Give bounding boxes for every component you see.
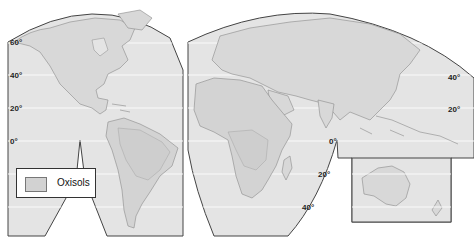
lat-label-20s-right: 20° [318,170,330,179]
lat-label-40n-right: 40° [448,73,460,82]
lat-label-40n-left: 40° [10,71,22,80]
americas-panel [0,10,190,236]
lat-label-equator-right: 0° [329,137,337,146]
lat-label-20n-right: 20° [448,105,460,114]
legend-label-oxisols: Oxisols [57,177,90,188]
eastern-hemisphere-panel [180,13,474,236]
world-map [0,0,474,243]
lat-label-20n-left: 20° [10,104,22,113]
lat-label-equator-left: 0° [10,137,18,146]
australia-inset [352,158,451,222]
map-legend: Oxisols [16,168,96,198]
lat-label-40s-right: 40° [302,203,314,212]
lat-label-60n-left: 60° [10,38,22,47]
oxisols-swatch [25,177,47,192]
